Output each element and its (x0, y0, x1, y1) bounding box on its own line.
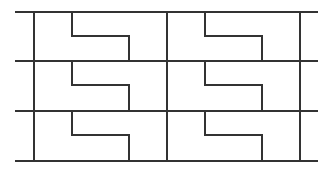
step-partition-line (205, 61, 262, 111)
step-partition-line (205, 12, 262, 61)
tiling-diagram (0, 0, 332, 177)
step-partition-line (72, 12, 129, 61)
step-partition-line (205, 111, 262, 161)
step-partition-line (72, 111, 129, 161)
diagram-svg (0, 0, 332, 177)
step-partition-line (72, 61, 129, 111)
